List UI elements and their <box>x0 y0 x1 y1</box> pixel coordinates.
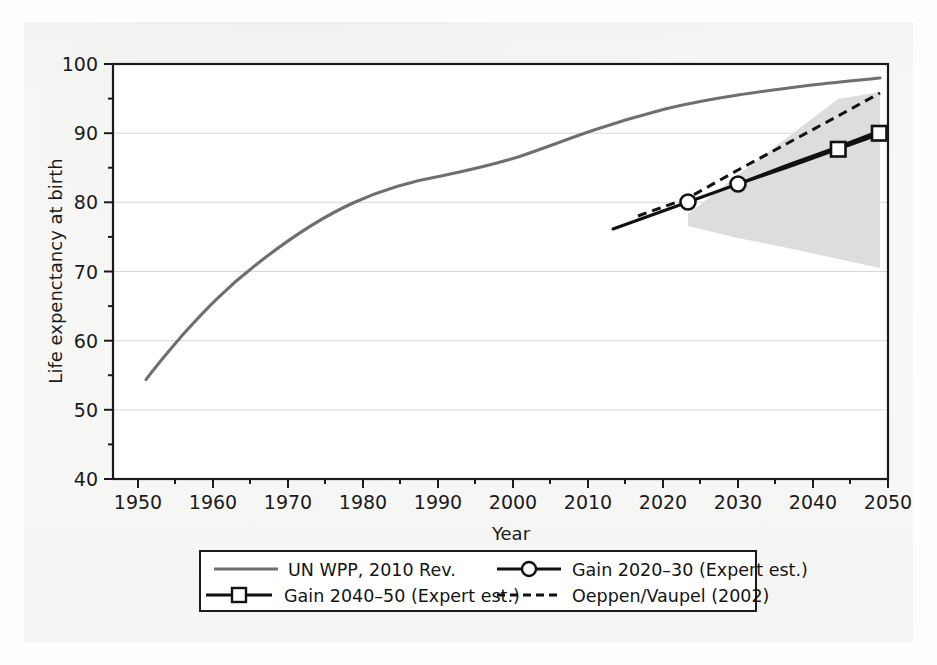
life-expectancy-chart: 100 90 80 70 60 50 40 <box>0 0 937 665</box>
y-tick-label: 60 <box>74 330 98 352</box>
x-axis-title: Year <box>491 523 531 544</box>
x-tick-label: 1960 <box>189 491 237 513</box>
y-tick-label: 50 <box>74 399 98 421</box>
x-tick-label: 2030 <box>714 491 762 513</box>
x-axis-ticks <box>138 479 888 488</box>
x-tick-label: 1970 <box>264 491 312 513</box>
x-tick-label: 2050 <box>864 491 912 513</box>
x-tick-label: 2000 <box>489 491 537 513</box>
y-tick-labels: 100 90 80 70 60 50 40 <box>62 53 98 490</box>
legend-label: Oeppen/Vaupel (2002) <box>572 586 769 606</box>
y-axis-ticks <box>104 64 113 479</box>
y-tick-label: 90 <box>74 122 98 144</box>
y-tick-label: 80 <box>74 191 98 213</box>
y-tick-label: 70 <box>74 261 98 283</box>
y-axis-title: Life expenctancy at birth <box>45 158 66 383</box>
x-tick-label: 1950 <box>114 491 162 513</box>
legend-label: Gain 2040–50 (Expert est.) <box>284 586 520 606</box>
figure-root: 100 90 80 70 60 50 40 <box>0 0 937 665</box>
y-tick-label: 100 <box>62 53 98 75</box>
x-tick-label: 2020 <box>639 491 687 513</box>
legend-square-marker-icon <box>232 588 246 602</box>
legend-circle-marker-icon <box>522 562 536 576</box>
x-tick-label: 1980 <box>339 491 387 513</box>
x-tick-label: 2010 <box>564 491 612 513</box>
x-tick-label: 2040 <box>789 491 837 513</box>
legend-label: Gain 2020–30 (Expert est.) <box>572 560 808 580</box>
x-tick-labels: 1950 1960 1970 1980 1990 2000 2010 2020 … <box>114 491 912 513</box>
y-tick-label: 40 <box>74 468 98 490</box>
legend: UN WPP, 2010 Rev. Gain 2020–30 (Expert e… <box>200 551 808 611</box>
x-tick-label: 1990 <box>414 491 462 513</box>
legend-label: UN WPP, 2010 Rev. <box>288 560 456 580</box>
